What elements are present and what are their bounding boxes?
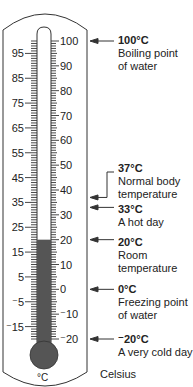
tick-label-left: 15	[12, 246, 24, 258]
annotation-description: temperature	[118, 188, 180, 201]
tick-label-right: ⁻10	[60, 308, 78, 320]
tick-label-left: 65	[12, 122, 24, 134]
annotation-temperature: 33°C	[118, 203, 164, 216]
arrow-head-icon	[90, 287, 98, 292]
annotation-description: Boiling point	[118, 47, 178, 60]
tick-label-left: 85	[12, 72, 24, 84]
tick-label-left: 45	[12, 172, 24, 184]
annotation: 0°CFreezing pointof water	[118, 283, 188, 322]
annotation: 20°CRoomtemperature	[118, 236, 177, 275]
tick-label-right: 0	[60, 283, 66, 295]
tick-label-left: ⁻15	[6, 321, 24, 333]
tick-label-right: 10	[60, 259, 72, 271]
tick-label-right: 50	[60, 159, 72, 171]
tick-label-left: 25	[12, 221, 24, 233]
annotation-arrow-line	[96, 172, 114, 197]
annotation-temperature: 100°C	[118, 34, 178, 47]
arrow-head-icon	[90, 337, 98, 342]
tick-label-right: 100	[60, 35, 78, 47]
annotation-description: A hot day	[118, 216, 164, 229]
annotation: ⁻20°CA very cold day	[118, 333, 193, 359]
tick-label-left: 55	[12, 147, 24, 159]
unit-symbol: °C	[37, 372, 48, 383]
tick-label-left: 95	[12, 47, 24, 59]
annotation-temperature: 20°C	[118, 236, 177, 249]
tick-label-left: ⁻5	[12, 296, 24, 308]
mercury-column	[37, 240, 51, 350]
tick-label-right: 60	[60, 134, 72, 146]
arrow-head-icon	[90, 205, 98, 210]
arrow-head-icon	[90, 39, 98, 44]
tick-label-right: 90	[60, 60, 72, 72]
tick-label-left: 5	[18, 271, 24, 283]
annotation-description: temperature	[118, 262, 177, 275]
annotation-temperature: 0°C	[118, 283, 188, 296]
annotation-description: A very cold day	[118, 346, 193, 359]
tick-label-right: 20	[60, 234, 72, 246]
annotation-description: Normal body	[118, 175, 180, 188]
arrow-head-icon	[90, 195, 98, 200]
tick-label-left: 35	[12, 196, 24, 208]
annotation-description: Freezing point	[118, 296, 188, 309]
mercury-bulb	[30, 341, 58, 369]
arrow-head-icon	[90, 237, 98, 242]
annotation: 33°CA hot day	[118, 203, 164, 229]
annotation-description: of water	[118, 60, 178, 73]
tick-label-right: 80	[60, 85, 72, 97]
scale-label: Celsius	[100, 368, 136, 380]
annotation-temperature: ⁻20°C	[118, 333, 193, 346]
annotation-description: of water	[118, 309, 188, 322]
tick-label-right: ⁻20	[60, 333, 78, 345]
annotation: 37°CNormal bodytemperature	[118, 162, 180, 201]
tick-label-right: 30	[60, 209, 72, 221]
tick-label-left: 75	[12, 97, 24, 109]
annotation-temperature: 37°C	[118, 162, 180, 175]
tick-label-right: 70	[60, 110, 72, 122]
annotation: 100°CBoiling pointof water	[118, 34, 178, 73]
tick-label-right: 40	[60, 184, 72, 196]
annotation-description: Room	[118, 249, 177, 262]
